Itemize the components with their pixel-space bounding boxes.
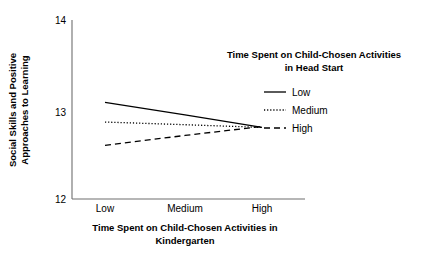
legend: Time Spent on Child-Chosen Activities in… <box>227 49 401 134</box>
series-line-medium <box>105 122 262 127</box>
x-tick-label-high: High <box>252 203 273 214</box>
legend-title-line2: in Head Start <box>285 62 344 73</box>
x-axis-title-line1: Time Spent on Child-Chosen Activities in <box>92 222 277 233</box>
legend-label-high: High <box>292 123 313 134</box>
x-axis-title-line2: Kindergarten <box>155 235 214 246</box>
y-tick-label-13: 13 <box>55 107 67 118</box>
series-line-high <box>105 127 262 146</box>
line-chart-svg: 14 13 12 Low Medium High Social Skills a… <box>0 0 428 254</box>
x-tick-label-low: Low <box>96 203 115 214</box>
legend-title-line1: Time Spent on Child-Chosen Activities <box>227 49 401 60</box>
legend-item-low[interactable]: Low <box>264 87 311 98</box>
x-tick-label-medium: Medium <box>167 203 203 214</box>
legend-item-high[interactable]: High <box>264 123 313 134</box>
y-tick-label-14: 14 <box>55 15 67 26</box>
series-group <box>105 102 262 145</box>
y-axis-title-line1: Social Skills and Positive <box>7 53 18 167</box>
legend-label-medium: Medium <box>292 105 328 116</box>
legend-label-low: Low <box>292 87 311 98</box>
y-axis-title: Social Skills and Positive Approaches to… <box>7 53 30 167</box>
legend-item-medium[interactable]: Medium <box>264 105 328 116</box>
y-tick-label-12: 12 <box>55 194 67 205</box>
chart-figure: 14 13 12 Low Medium High Social Skills a… <box>0 0 428 254</box>
series-line-low <box>105 102 262 127</box>
x-axis-title: Time Spent on Child-Chosen Activities in… <box>92 222 277 246</box>
y-axis-title-line2: Approaches to Learning <box>19 55 30 164</box>
